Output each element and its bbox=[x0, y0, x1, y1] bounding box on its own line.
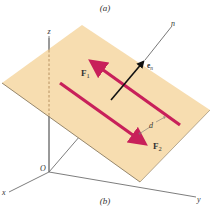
x-axis bbox=[9, 172, 49, 192]
normal-axis-line bbox=[145, 26, 172, 60]
unit-normal-label: en bbox=[147, 61, 153, 71]
caption-a: (a) bbox=[100, 3, 111, 13]
normal-axis-label: n bbox=[171, 19, 175, 28]
y-axis bbox=[49, 172, 196, 197]
z-axis-label: z bbox=[46, 27, 51, 36]
caption-b: (b) bbox=[100, 196, 111, 206]
plane bbox=[2, 25, 210, 182]
origin-to-plane-line bbox=[49, 136, 80, 172]
x-axis-label: x bbox=[1, 188, 6, 197]
couple-diagram: (a) z O x y n en F1 F2 d (b) bbox=[0, 0, 210, 207]
origin-label: O bbox=[40, 164, 46, 173]
y-axis-label: y bbox=[196, 195, 201, 204]
